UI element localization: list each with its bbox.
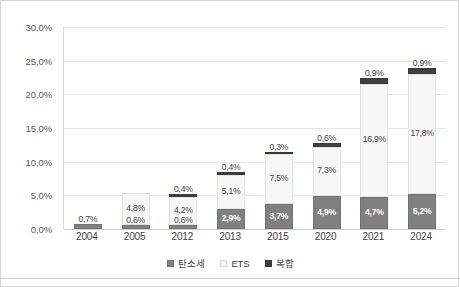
bar-group[interactable]: 0,4%4,2%0,6% [160, 27, 208, 229]
bar-value-label: 0,9% [365, 68, 384, 78]
gridline [64, 229, 446, 230]
stacked-bar[interactable]: 0,4%4,2%0,6% [169, 194, 197, 229]
bar-segment-ets[interactable]: 5,1% [217, 175, 245, 209]
bar-segment-ets[interactable]: 7,5% [265, 154, 293, 205]
bar-segment-tax[interactable]: 2,9% [217, 209, 245, 229]
x-axis-tick-label: 2004 [63, 231, 111, 242]
y-axis-tick-label: 20,0% [26, 89, 52, 100]
bar-segment-ets[interactable]: 17,8% [408, 74, 436, 194]
bar-segment-ets[interactable]: 16,9% [360, 84, 388, 198]
stacked-bar[interactable]: 0,9%16,9%4,7% [360, 78, 388, 229]
bar-value-label: 0,9% [413, 58, 432, 68]
stacked-bar[interactable]: 4,8%0,6% [122, 193, 150, 229]
stacked-bar[interactable]: 0,7% [74, 224, 102, 229]
bar-value-label: 7,3% [317, 165, 336, 175]
bar-value-label: 0,6% [317, 133, 336, 143]
legend-item[interactable]: 복합 [265, 256, 294, 270]
bar-group[interactable]: 0,9%17,8%5,2% [398, 27, 446, 229]
bar-value-label: 0,6% [174, 215, 193, 225]
y-axis-tick-label: 15,0% [26, 123, 52, 134]
bar-segment-tax[interactable]: 4,7% [360, 197, 388, 229]
legend-label: 복합 [276, 256, 294, 270]
bar-value-label: 4,7% [365, 207, 384, 217]
x-axis-tick-label: 2013 [206, 231, 254, 242]
bar-value-label: 4,9% [317, 207, 336, 217]
x-axis-tick-label: 2012 [159, 231, 207, 242]
bar-segment-tax[interactable]: 0,6% [122, 225, 150, 229]
bar-segment-ets[interactable]: 7,3% [313, 147, 341, 196]
legend-label: 탄소세 [178, 256, 204, 270]
stacked-bar[interactable]: 0,4%5,1%2,9% [217, 172, 245, 229]
x-axis-tick-label: 2021 [350, 231, 398, 242]
y-axis: 0,0%5,0%10,0%15,0%20,0%25,0%30,0% [1, 27, 59, 229]
y-axis-tick-label: 25,0% [26, 55, 52, 66]
bar-value-label: 17,8% [410, 128, 433, 138]
bar-segment-tax[interactable]: 0,6% [169, 225, 197, 229]
x-axis-tick-label: 2015 [254, 231, 302, 242]
x-axis-tick-label: 2020 [302, 231, 350, 242]
bar-value-label: 0,4% [222, 162, 241, 172]
y-axis-tick-label: 10,0% [26, 156, 52, 167]
bottom-divider [1, 278, 460, 279]
tax-swatch-icon [167, 260, 174, 267]
bar-group[interactable]: 0,9%16,9%4,7% [351, 27, 399, 229]
legend-item[interactable]: ETS [220, 258, 249, 269]
x-axis: 20042005201220132015202020212024 [63, 231, 445, 251]
bar-value-label: 4,8% [126, 203, 145, 213]
bar-group[interactable]: 0,6%7,3%4,9% [303, 27, 351, 229]
bar-value-label: 5,2% [413, 206, 432, 216]
bar-value-label: 4,2% [174, 205, 193, 215]
legend-item[interactable]: 탄소세 [167, 256, 204, 270]
x-axis-tick-label: 2005 [111, 231, 159, 242]
bar-group[interactable]: 4,8%0,6% [112, 27, 160, 229]
legend-label: ETS [231, 258, 249, 269]
stacked-bar[interactable]: 0,6%7,3%4,9% [313, 143, 341, 229]
x-axis-tick-label: 2024 [397, 231, 445, 242]
bar-group[interactable]: 0,7% [64, 27, 112, 229]
bar-value-label: 16,9% [363, 134, 386, 144]
stacked-bar[interactable]: 0,3%7,5%3,7% [265, 152, 293, 229]
bar-segment-tax[interactable]: 3,7% [265, 204, 293, 229]
bar-value-label: 3,7% [269, 211, 288, 221]
ets-swatch-icon [220, 260, 227, 267]
y-axis-tick-label: 30,0% [26, 22, 52, 33]
bar-value-label: 7,5% [269, 173, 288, 183]
bar-segment-tax[interactable]: 4,9% [313, 196, 341, 229]
y-axis-tick-label: 0,0% [31, 224, 52, 235]
bar-group[interactable]: 0,4%5,1%2,9% [207, 27, 255, 229]
bar-series-group: 0,7%4,8%0,6%0,4%4,2%0,6%0,4%5,1%2,9%0,3%… [64, 27, 446, 229]
bar-value-label: 0,4% [174, 184, 193, 194]
mix-swatch-icon [265, 260, 272, 267]
bar-value-label: 0,3% [269, 142, 288, 152]
bar-group[interactable]: 0,3%7,5%3,7% [255, 27, 303, 229]
bar-value-label: 0,7% [78, 214, 97, 224]
plot-area: 0,7%4,8%0,6%0,4%4,2%0,6%0,4%5,1%2,9%0,3%… [63, 27, 445, 229]
bar-value-label: 2,9% [222, 213, 241, 223]
chart-legend: 탄소세ETS복합 [1, 256, 460, 270]
bar-value-label: 5,1% [222, 186, 241, 196]
bar-segment-tax[interactable]: 0,7% [74, 224, 102, 229]
bar-segment-tax[interactable]: 5,2% [408, 194, 436, 229]
y-axis-tick-label: 5,0% [31, 190, 52, 201]
stacked-bar[interactable]: 0,9%17,8%5,2% [408, 68, 436, 229]
bar-value-label: 0,6% [126, 215, 145, 225]
